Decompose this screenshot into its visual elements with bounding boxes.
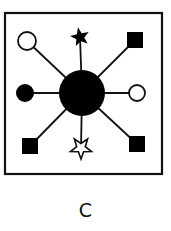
star-network-diagram [0, 0, 171, 190]
left-filled-circle-node [16, 84, 34, 102]
center-node-filled-circle [59, 70, 105, 116]
right-hollow-circle-node [129, 85, 145, 101]
top-right-filled-square-node [127, 32, 143, 48]
bottom-left-filled-square-node [22, 138, 38, 154]
bottom-right-filled-square-node [129, 136, 145, 152]
figure-caption: C [0, 199, 171, 221]
top-left-hollow-circle-node [18, 32, 36, 50]
